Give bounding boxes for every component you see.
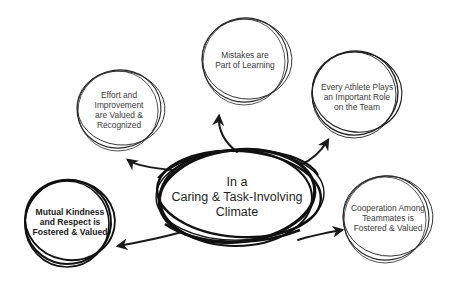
node-label-mutual-kindness: Mutual Kindness and Respect is Fostered … (28, 204, 112, 240)
center-label: In a Caring & Task-Involving Climate (170, 172, 304, 222)
node-label-effort: Effort and Improvement are Valued & Reco… (84, 80, 154, 140)
arrow-to-mutual-kindness (118, 232, 182, 246)
arrow-to-mistakes (219, 116, 237, 152)
arrow-to-effort (128, 160, 172, 170)
node-label-every-athlete: Every Athlete Plays an Important Role on… (315, 77, 399, 117)
arrow-to-cooperation (298, 230, 342, 240)
node-label-mistakes: Mistakes are Part of Learning (207, 46, 283, 74)
diagram-canvas: In a Caring & Task-Involving Climate Eff… (0, 0, 452, 285)
node-label-cooperation: Cooperation Among Teammates is Fostered … (345, 200, 431, 236)
diagram-drawing (0, 0, 452, 285)
